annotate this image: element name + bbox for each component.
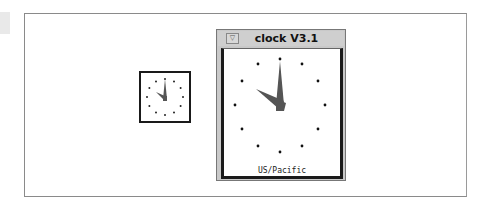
side-tab (0, 12, 10, 34)
title-bar[interactable]: ▽ clock V3.1 (218, 31, 344, 46)
window-menu-button[interactable]: ▽ (226, 33, 239, 44)
analog-clock (224, 49, 340, 176)
menu-down-icon: ▽ (230, 34, 235, 42)
clock-window[interactable]: ▽ clock V3.1 US/Pacific (216, 29, 346, 181)
window-title: clock V3.1 (239, 32, 344, 45)
timezone-label: US/Pacific (224, 166, 340, 175)
clock-icon (141, 73, 189, 121)
clock-face: US/Pacific (221, 48, 343, 179)
iconified-clock[interactable] (139, 71, 191, 123)
